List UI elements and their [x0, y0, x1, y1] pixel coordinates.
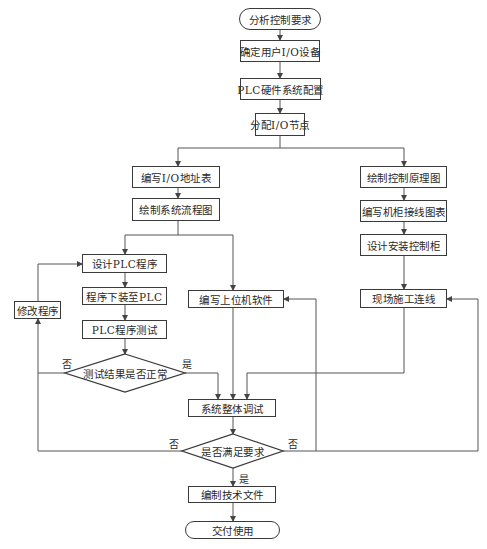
design-plc-step: 设计PLC程序 [82, 254, 167, 273]
test-ok-decision: 测试结果是否正常 [65, 364, 185, 382]
control-schematic-step: 绘制控制原理图 [360, 166, 447, 188]
start-terminal: 分析控制要求 [239, 8, 321, 30]
meets-req-decision: 是否满足要求 [182, 442, 283, 460]
req-no-right-label: 否 [288, 436, 298, 451]
modify-program-step: 修改程序 [14, 301, 61, 319]
assign-io-step: 分配I/O节点 [255, 113, 305, 136]
download-plc-step: 程序下装至PLC [82, 287, 167, 305]
flow-chart-step: 绘制系统流程图 [132, 198, 220, 221]
cabinet-wiring-step: 编写机柜接线图表 [360, 200, 447, 222]
end-terminal: 交付使用 [185, 521, 280, 539]
host-software-step: 编写上位机软件 [188, 290, 284, 308]
io-table-step: 编写I/O地址表 [132, 166, 220, 188]
test-no-label: 否 [62, 356, 72, 371]
cabinet-design-step: 设计安装控制柜 [360, 234, 447, 256]
test-yes-label: 是 [182, 356, 192, 371]
hw-config-step: PLC硬件系统配置 [240, 78, 321, 100]
determine-io-step: 确定用户I/O设备 [240, 40, 320, 62]
flowchart-canvas: 分析控制要求 确定用户I/O设备 PLC硬件系统配置 分配I/O节点 编写I/O… [0, 0, 487, 549]
test-plc-step: PLC程序测试 [82, 320, 167, 339]
req-yes-label: 是 [239, 471, 249, 486]
system-debug-step: 系统整体调试 [188, 399, 276, 417]
tech-docs-step: 编制技术文件 [188, 486, 276, 503]
field-wiring-step: 现场施工连线 [360, 289, 447, 308]
req-no-left-label: 否 [169, 436, 179, 451]
